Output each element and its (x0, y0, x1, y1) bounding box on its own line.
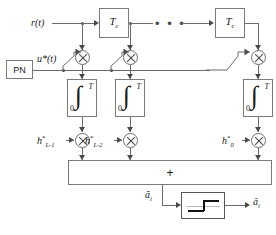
pn-feed-stub-1 (62, 44, 82, 72)
arrowhead-weight1-in (69, 137, 74, 143)
signum-decision-device[interactable] (181, 192, 225, 219)
integrator-2[interactable]: T ∫ 0 (115, 79, 145, 117)
step-upper-segment (203, 200, 219, 202)
integrator-3-lower-limit: 0 (246, 104, 250, 113)
integrator-1-upper-limit: T (89, 82, 93, 91)
wire-input-to-tap1 (52, 23, 83, 24)
pn-generator-block[interactable]: PN (6, 60, 33, 79)
integrator-1-sign: ∫ (75, 83, 82, 109)
tap-weight-label-2: h*L-2 (85, 135, 103, 149)
tap-weight-label-3: h*0 (222, 135, 234, 149)
input-signal-label: r(t) (31, 18, 44, 28)
arrowhead-weight3-in (245, 137, 250, 143)
arrowhead-into-weight2 (127, 127, 133, 132)
integrator-3-sign: ∫ (251, 83, 258, 109)
weight-multiplier-3[interactable] (251, 133, 266, 148)
integrator-1[interactable]: T ∫ 0 (67, 79, 97, 117)
integrator-1-lower-limit: 0 (70, 104, 74, 113)
arrowhead-into-weight1 (79, 127, 85, 132)
wire-sum-out-drop (162, 185, 163, 205)
block-diagram-canvas: r(t) Tc • • • Tc PN (0, 0, 276, 235)
hard-decision-label: âi (253, 197, 260, 210)
step-lower-segment (188, 210, 204, 212)
summation-node[interactable]: + (68, 160, 272, 185)
delay-block-last-label: Tc (216, 16, 244, 30)
pn-feed-stub-2 (110, 44, 130, 72)
delay-block-1-label: Tc (100, 16, 128, 30)
summation-plus-label: + (166, 166, 173, 180)
integrator-2-sign: ∫ (123, 83, 130, 109)
arrowhead-into-delayN (209, 20, 214, 26)
integrator-3[interactable]: T ∫ 0 (243, 79, 273, 117)
delay-block-last[interactable]: Tc (215, 8, 245, 38)
wire-delayN-out (245, 23, 259, 24)
wire-ellipsis-to-delayN (181, 23, 211, 24)
integrator-2-upper-limit: T (137, 82, 141, 91)
arrowhead-decision-out (245, 202, 250, 208)
arrowhead-weight2-in (117, 137, 122, 143)
pn-generator-label: PN (7, 65, 32, 74)
delay-block-1[interactable]: Tc (99, 8, 129, 38)
tap-weight-label-1: h*L-1 (37, 135, 55, 149)
arrowhead-into-weight3 (255, 127, 261, 132)
despread-sequence-label: u*(t) (37, 54, 56, 64)
soft-decision-label: ãi (145, 190, 152, 203)
weight-multiplier-2[interactable] (123, 133, 138, 148)
pn-feed-stub-3 (205, 44, 255, 74)
integrator-3-upper-limit: T (265, 82, 269, 91)
integrator-2-lower-limit: 0 (118, 104, 122, 113)
wire-to-ellipsis (129, 23, 152, 24)
